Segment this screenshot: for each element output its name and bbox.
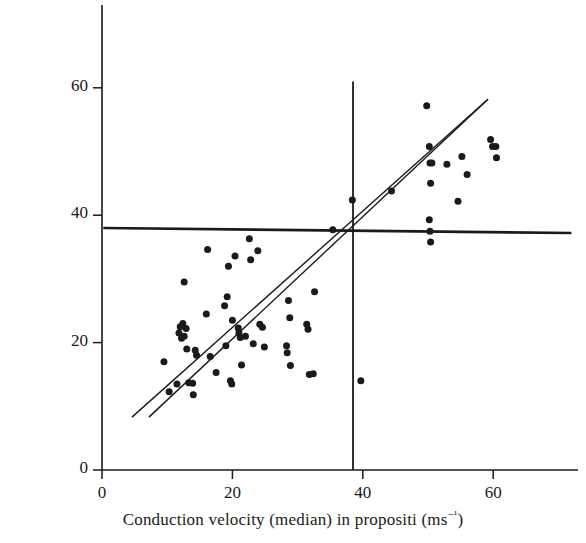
data-point bbox=[193, 352, 200, 359]
data-point bbox=[423, 102, 430, 109]
data-point bbox=[222, 342, 229, 349]
data-point bbox=[173, 381, 180, 388]
data-point bbox=[464, 171, 471, 178]
data-point bbox=[213, 369, 220, 376]
data-point bbox=[287, 362, 294, 369]
data-point bbox=[203, 310, 210, 317]
data-point bbox=[283, 342, 290, 349]
data-point bbox=[286, 314, 293, 321]
x-axis-title-superscript: −¹ bbox=[448, 508, 458, 520]
data-point bbox=[310, 370, 317, 377]
data-point bbox=[228, 381, 235, 388]
x-axis-title-text: Conduction velocity (median) in proposit… bbox=[123, 510, 448, 529]
data-point bbox=[311, 288, 318, 295]
y-tick-label-20: 20 bbox=[48, 331, 88, 351]
data-point bbox=[427, 180, 434, 187]
data-point bbox=[250, 340, 257, 347]
data-point bbox=[238, 361, 245, 368]
regression-line-lower bbox=[149, 99, 488, 417]
data-point bbox=[207, 353, 214, 360]
data-point bbox=[388, 187, 395, 194]
x-tick-label-60: 60 bbox=[473, 483, 513, 503]
data-point bbox=[284, 349, 291, 356]
data-point bbox=[428, 159, 435, 166]
data-point bbox=[204, 246, 211, 253]
data-point bbox=[232, 252, 239, 259]
scatter-plot-figure: 0204060 0204060 Conduction velocity (med… bbox=[0, 0, 586, 543]
data-point bbox=[254, 247, 261, 254]
data-point bbox=[349, 196, 356, 203]
data-point bbox=[225, 263, 232, 270]
data-points-group bbox=[160, 102, 500, 398]
data-point bbox=[493, 154, 500, 161]
data-point bbox=[285, 297, 292, 304]
data-point bbox=[443, 161, 450, 168]
data-point bbox=[160, 358, 167, 365]
data-point bbox=[492, 143, 499, 150]
data-point bbox=[183, 325, 190, 332]
data-point bbox=[427, 238, 434, 245]
data-point bbox=[183, 345, 190, 352]
data-point bbox=[166, 388, 173, 395]
data-point bbox=[189, 380, 196, 387]
regression-line-upper bbox=[132, 99, 488, 417]
data-point bbox=[454, 198, 461, 205]
x-tick-label-40: 40 bbox=[343, 483, 383, 503]
horizontal-mean-line bbox=[103, 228, 571, 233]
data-point bbox=[221, 302, 228, 309]
y-tick-label-40: 40 bbox=[48, 203, 88, 223]
y-tick-label-60: 60 bbox=[48, 76, 88, 96]
y-tick-label-0: 0 bbox=[48, 458, 88, 478]
reference-lines-group bbox=[103, 81, 571, 470]
x-axis-title-suffix: ) bbox=[457, 510, 463, 529]
data-point bbox=[259, 324, 266, 331]
data-point bbox=[426, 216, 433, 223]
data-point bbox=[305, 326, 312, 333]
x-tick-label-20: 20 bbox=[212, 483, 252, 503]
data-point bbox=[181, 333, 188, 340]
data-point bbox=[487, 136, 494, 143]
data-point bbox=[458, 153, 465, 160]
data-point bbox=[426, 228, 433, 235]
data-point bbox=[190, 391, 197, 398]
data-point bbox=[181, 279, 188, 286]
data-point bbox=[229, 317, 236, 324]
x-tick-label-0: 0 bbox=[82, 483, 122, 503]
data-point bbox=[426, 143, 433, 150]
data-point bbox=[224, 293, 231, 300]
data-point bbox=[329, 226, 336, 233]
data-point bbox=[242, 333, 249, 340]
data-point bbox=[357, 377, 364, 384]
data-point bbox=[261, 344, 268, 351]
x-axis-title: Conduction velocity (median) in proposit… bbox=[0, 508, 586, 530]
data-point bbox=[247, 256, 254, 263]
data-point bbox=[246, 235, 253, 242]
